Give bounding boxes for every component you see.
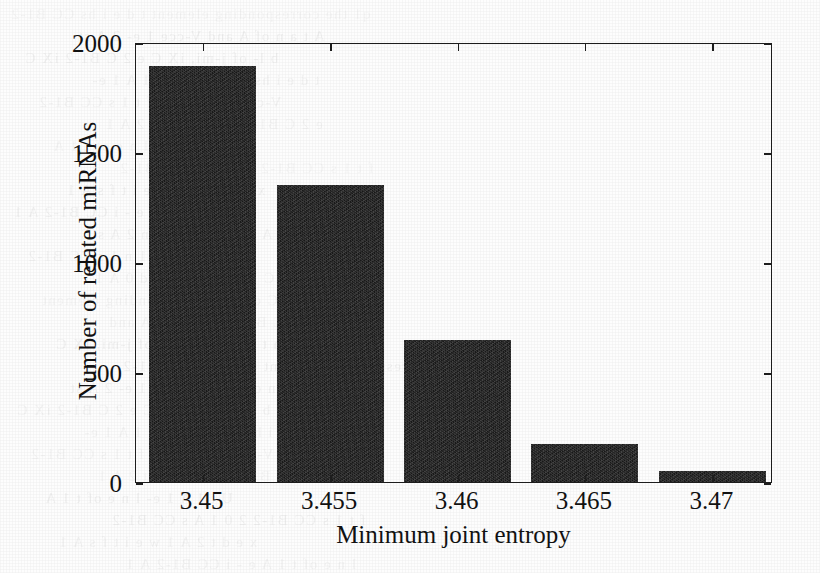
y-tick-mark: [136, 483, 143, 485]
y-tick-mark: [136, 263, 143, 265]
x-tick-mark: [712, 475, 714, 482]
y-axis-title: Number of related miRNAs: [74, 41, 102, 481]
x-tick-label: 3.47: [689, 488, 733, 513]
x-tick-mark: [203, 44, 205, 51]
x-axis-tick-labels: 3.453.4553.463.4653.47: [135, 488, 772, 522]
x-tick-label: 3.45: [180, 488, 224, 513]
y-tick-mark: [136, 43, 143, 45]
x-tick-mark: [330, 475, 332, 482]
y-tick-label: 0: [110, 471, 123, 496]
bar-3.46: [404, 340, 511, 482]
y-tick-mark: [136, 373, 143, 375]
y-tick-mark: [764, 43, 771, 45]
bleedthrough-text-line: q1 the corresponding element t d e i hs …: [10, 6, 370, 23]
y-tick-mark: [764, 263, 771, 265]
plot-area: [135, 43, 772, 483]
x-tick-mark: [585, 44, 587, 51]
x-tick-mark: [330, 44, 332, 51]
figure-canvas: q1 the corresponding element t d e i hs …: [0, 0, 820, 573]
y-tick-mark: [764, 153, 771, 155]
y-tick-mark: [764, 373, 771, 375]
bar-3.455: [277, 185, 384, 482]
x-tick-mark: [458, 44, 460, 51]
y-axis-tick-labels: 0500100015002000: [0, 43, 122, 483]
y-tick-mark: [136, 153, 143, 155]
x-tick-mark: [203, 475, 205, 482]
x-tick-mark: [712, 44, 714, 51]
bar-3.45: [149, 66, 256, 482]
x-axis-title: Minimum joint entropy: [135, 521, 772, 549]
x-tick-label: 3.46: [435, 488, 479, 513]
x-tick-label: 3.465: [556, 488, 612, 513]
y-tick-mark: [764, 483, 771, 485]
x-tick-mark: [585, 475, 587, 482]
bleedthrough-text-line: l n e of t 1 A e - i CC B1-2 A 1: [125, 556, 356, 573]
x-tick-mark: [458, 475, 460, 482]
x-tick-label: 3.455: [301, 488, 357, 513]
